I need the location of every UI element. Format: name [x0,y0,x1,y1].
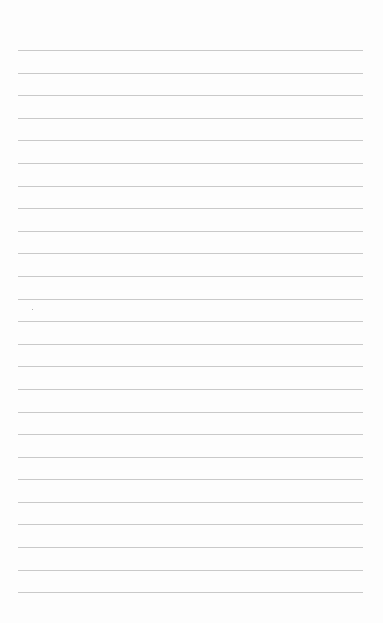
ruled-line [18,140,363,141]
ruled-line [18,95,363,96]
ruled-line [18,208,363,209]
ruled-line [18,186,363,187]
lined-paper-page [0,0,383,623]
ruled-line [18,524,363,525]
ruled-line [18,299,363,300]
ruled-line [18,592,363,593]
ruled-line [18,253,363,254]
ruled-line [18,570,363,571]
ruled-line [18,366,363,367]
ruled-line [18,163,363,164]
ruled-line [18,502,363,503]
ruled-line [18,321,363,322]
ruled-line [18,344,363,345]
ruled-line [18,389,363,390]
ruled-line [18,118,363,119]
ruled-line [18,434,363,435]
ruled-line [18,412,363,413]
paper-speck [32,309,33,310]
ruled-line [18,547,363,548]
ruled-line [18,231,363,232]
ruled-line [18,50,363,51]
ruled-line [18,457,363,458]
ruled-line [18,276,363,277]
ruled-line [18,479,363,480]
ruled-line [18,73,363,74]
ruled-lines [18,50,363,615]
